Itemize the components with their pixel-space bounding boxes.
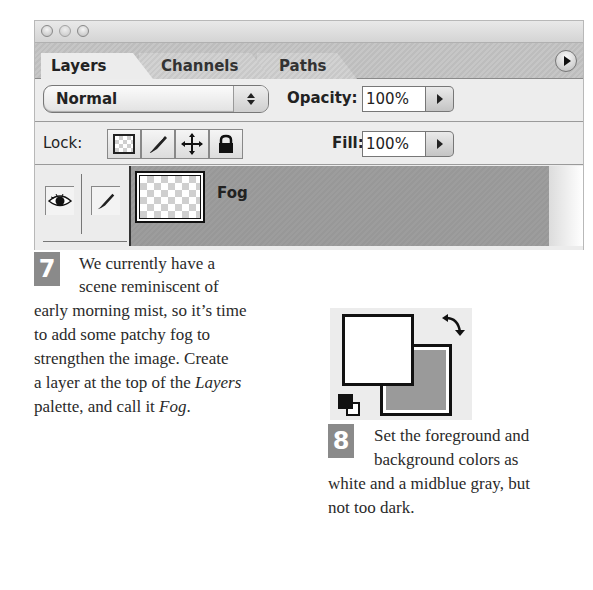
layer-name: Fog xyxy=(217,184,248,202)
foreground-color-swatch[interactable] xyxy=(342,314,414,386)
text-italic: Layers xyxy=(195,373,241,392)
tab-label: Layers xyxy=(51,57,107,75)
tab-label: Paths xyxy=(267,57,327,75)
divider xyxy=(81,174,82,234)
chevron-updown-icon xyxy=(233,86,268,112)
zoom-button[interactable] xyxy=(77,25,89,37)
tab-bar: Layers Channels Paths xyxy=(35,43,583,79)
blend-row: Normal Opacity: 100% xyxy=(35,79,583,122)
layer-visibility-toggle[interactable] xyxy=(45,186,74,215)
text-span: palette, and call it xyxy=(34,397,159,416)
paintbrush-icon xyxy=(95,190,117,212)
tab-channels[interactable]: Channels xyxy=(139,53,271,79)
text-line: background colors as xyxy=(374,448,518,472)
text-line: We currently have a xyxy=(79,252,215,276)
fill-input[interactable]: 100% xyxy=(362,131,426,157)
layer-thumbnail xyxy=(135,171,205,223)
fill-value: 100% xyxy=(366,135,409,153)
step-number-7: 7 xyxy=(34,252,60,286)
close-button[interactable] xyxy=(41,25,53,37)
text-span: . xyxy=(186,397,190,416)
text-line: a layer at the top of the Layers xyxy=(34,371,241,395)
layer-link-toggle[interactable] xyxy=(91,186,120,215)
opacity-slider-button[interactable] xyxy=(426,86,454,112)
lock-transparency-icon xyxy=(113,134,135,154)
layer-item-fog[interactable]: Fog xyxy=(129,166,551,246)
eye-icon xyxy=(48,193,72,209)
tab-paths[interactable]: Paths xyxy=(257,53,357,79)
text-span: a layer at the top of the xyxy=(34,373,195,392)
title-bar[interactable] xyxy=(35,21,583,43)
lock-paint-icon xyxy=(146,133,170,155)
scrollbar[interactable] xyxy=(549,166,583,246)
text-line: Set the foreground and xyxy=(374,424,529,448)
lock-position-icon xyxy=(181,133,203,155)
lock-label: Lock: xyxy=(43,134,82,152)
swap-colors-icon[interactable] xyxy=(440,312,468,340)
minimize-button[interactable] xyxy=(59,25,71,37)
opacity-input[interactable]: 100% xyxy=(362,86,426,112)
tab-label: Channels xyxy=(149,57,238,75)
lock-position-button[interactable] xyxy=(175,129,209,159)
text-line: white and a midblue gray, but xyxy=(328,472,530,496)
text-line: scene reminiscent of xyxy=(79,275,219,299)
play-arrow-icon xyxy=(437,139,443,149)
fill-slider-button[interactable] xyxy=(426,131,454,157)
fill-label: Fill: xyxy=(332,134,364,152)
lock-row: Lock: Fill: 100% xyxy=(35,123,583,165)
text-line: to add some patchy fog to xyxy=(34,323,210,347)
default-colors-icon[interactable] xyxy=(338,394,362,418)
lock-all-icon xyxy=(217,134,235,154)
lock-all-button[interactable] xyxy=(209,129,243,159)
blend-mode-value: Normal xyxy=(56,90,117,108)
layer-list: Fog xyxy=(35,166,583,250)
text-line: early morning mist, so it’s time xyxy=(34,299,246,323)
opacity-label: Opacity: xyxy=(287,89,358,107)
text-line: not too dark. xyxy=(328,496,414,520)
tab-layers[interactable]: Layers xyxy=(41,53,153,79)
palette-menu-arrow-icon xyxy=(564,56,571,66)
color-swatch-widget xyxy=(330,308,472,420)
layers-palette: Layers Channels Paths Normal Opacity: 10… xyxy=(34,20,584,250)
play-arrow-icon xyxy=(437,94,443,104)
text-italic: Fog xyxy=(159,397,186,416)
lock-transparency-button[interactable] xyxy=(107,129,141,159)
step-number-8: 8 xyxy=(328,424,354,458)
palette-menu-button[interactable] xyxy=(555,50,577,72)
lock-paint-button[interactable] xyxy=(141,129,175,159)
opacity-value: 100% xyxy=(366,90,409,108)
text-line: palette, and call it Fog. xyxy=(34,395,191,419)
text-line: strengthen the image. Create xyxy=(34,347,228,371)
blend-mode-select[interactable]: Normal xyxy=(43,85,269,113)
divider xyxy=(43,241,127,242)
